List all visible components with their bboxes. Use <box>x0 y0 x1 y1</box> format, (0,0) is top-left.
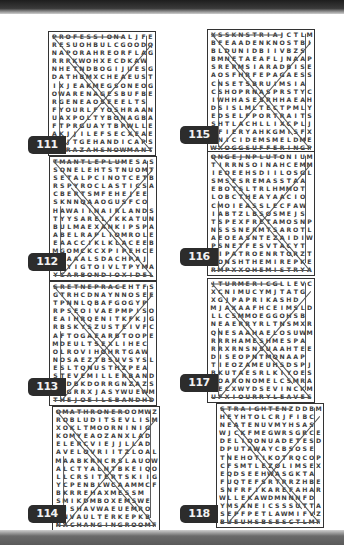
grid-letter: N <box>72 98 79 106</box>
grid-letter: C <box>134 198 141 206</box>
grid-letter: O <box>251 312 258 320</box>
grid-letter: O <box>127 332 134 340</box>
grid-letter: N <box>294 494 301 502</box>
grid-row: MJAXAAFHCEIMSLD <box>210 304 313 312</box>
grid-letter: V <box>89 448 96 456</box>
grid-letter: T <box>279 250 286 258</box>
grid-row: NACHANGINGROOMF <box>55 521 158 529</box>
grid-letter: E <box>130 465 137 473</box>
grid-letter: C <box>62 481 69 489</box>
grid-letter: A <box>121 396 128 404</box>
grid-letter: N <box>127 396 134 404</box>
grid-letter: E <box>258 361 265 369</box>
grid-letter: I <box>127 182 134 190</box>
grid-row: SNVAULTERKEPKB <box>55 513 158 521</box>
grid-row: IXJEAKMEGSONEOG <box>51 82 154 90</box>
grid-letter: G <box>217 296 224 304</box>
grid-letter: R <box>224 161 231 169</box>
grid-letter: M <box>121 307 128 315</box>
grid-letter: T <box>299 226 306 234</box>
grid-letter: F <box>151 521 158 529</box>
grid-row: WLLEKAWDMNNNFD <box>219 494 322 502</box>
grid-letter: C <box>93 247 100 255</box>
grid-row: EAACCIKLKLACEEB <box>52 239 155 247</box>
grid-letter: E <box>82 489 89 497</box>
grid-letter: T <box>148 166 155 174</box>
grid-letter: A <box>133 146 140 154</box>
grid-letter: E <box>134 190 141 198</box>
grid-letter: S <box>86 323 93 331</box>
grid-letter: L <box>100 239 107 247</box>
grid-row: EBOTSLTRLHMMOT <box>210 185 313 193</box>
grid-letter: S <box>55 497 62 505</box>
grid-letter: A <box>100 223 107 231</box>
grid-letter: B <box>224 193 231 201</box>
grid-letter: M <box>73 247 80 255</box>
grid-letter: S <box>258 345 265 353</box>
grid-letter: Y <box>299 266 306 274</box>
grid-letter: B <box>59 323 66 331</box>
grid-row: AOSFHRFEPAGAESS <box>210 71 313 79</box>
grid-letter: I <box>224 136 231 144</box>
grid-letter: M <box>306 153 313 161</box>
grid-letter: C <box>127 239 134 247</box>
grid-letter: B <box>299 39 306 47</box>
grid-letter: N <box>121 380 128 388</box>
grid-letter: E <box>66 396 73 404</box>
grid-letter: A <box>82 505 89 513</box>
grid-letter: Y <box>134 356 141 364</box>
grid-letter: H <box>73 291 80 299</box>
grid-letter: S <box>258 385 265 393</box>
grid-letter: T <box>114 166 121 174</box>
grid-letter: A <box>134 380 141 388</box>
grid-letter: F <box>251 304 258 312</box>
grid-letter: W <box>306 234 313 242</box>
grid-letter: I <box>124 424 131 432</box>
grid-letter: B <box>251 210 258 218</box>
grid-letter: T <box>240 421 247 429</box>
grid-letter: A <box>292 353 299 361</box>
grid-letter: E <box>93 158 100 166</box>
grid-letter: A <box>292 202 299 210</box>
grid-letter: K <box>107 239 114 247</box>
grid-letter: E <box>124 513 131 521</box>
grid-letter: A <box>134 255 141 263</box>
grid-letter: L <box>272 393 279 401</box>
grid-letter: S <box>237 177 244 185</box>
grid-letter: A <box>244 329 251 337</box>
grid-letter: E <box>147 130 154 138</box>
grid-letter: R <box>237 320 244 328</box>
grid-letter: E <box>103 440 110 448</box>
grid-letter: E <box>258 258 265 266</box>
grid-letter: G <box>106 82 113 90</box>
grid-letter: P <box>59 299 66 307</box>
puzzle-number-badge: 115 <box>180 126 218 144</box>
grid-letter: O <box>113 49 120 57</box>
grid-letter: I <box>137 465 144 473</box>
grid-letter: E <box>69 448 76 456</box>
grid-letter: N <box>106 146 113 154</box>
grid-letter: L <box>66 223 73 231</box>
grid-letter: S <box>267 518 274 526</box>
grid-letter: H <box>73 315 80 323</box>
grid-letter: D <box>251 385 258 393</box>
grid-letter: U <box>265 80 272 88</box>
grid-letter: E <box>251 193 258 201</box>
grid-letter: O <box>253 437 260 445</box>
grid-letter: Z <box>124 448 131 456</box>
grid-letter: K <box>114 215 121 223</box>
grid-letter: T <box>237 250 244 258</box>
grid-letter: B <box>69 416 76 424</box>
grid-letter: N <box>237 226 244 234</box>
grid-letter: E <box>133 65 140 73</box>
grid-letter: S <box>219 405 226 413</box>
grid-letter: M <box>62 408 69 416</box>
grid-letter: I <box>265 169 272 177</box>
grid-letter: J <box>224 296 231 304</box>
grid-letter: J <box>306 361 313 369</box>
grid-row: DISEOPNTMQNAAP <box>210 353 313 361</box>
grid-letter: T <box>301 502 308 510</box>
grid-row: EDSELFPORTRAITS <box>210 112 313 120</box>
grid-letter: S <box>134 291 141 299</box>
grid-letter: M <box>137 481 144 489</box>
